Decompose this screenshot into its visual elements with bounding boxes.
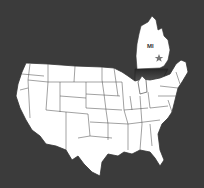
us-map: MI [0,0,204,188]
state-label-mi: MI [147,43,154,49]
